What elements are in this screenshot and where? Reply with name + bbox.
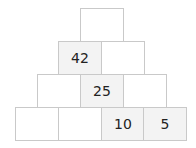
pyramid-cell-r3-c1[interactable] [37, 74, 81, 108]
pyramid-cell-r2-c2[interactable] [101, 41, 145, 75]
pyramid-cell-r2-c1: 42 [58, 41, 102, 75]
pyramid-cell-r3-c3[interactable] [123, 74, 167, 108]
pyramid-cell-r4-c3: 10 [101, 107, 145, 141]
pyramid-cell-r3-c2: 25 [80, 74, 124, 108]
pyramid-cell-r1-c1[interactable] [80, 8, 124, 42]
pyramid-cell-r4-c1[interactable] [15, 107, 59, 141]
pyramid-cell-r4-c4: 5 [143, 107, 187, 141]
pyramid-cell-r4-c2[interactable] [58, 107, 102, 141]
